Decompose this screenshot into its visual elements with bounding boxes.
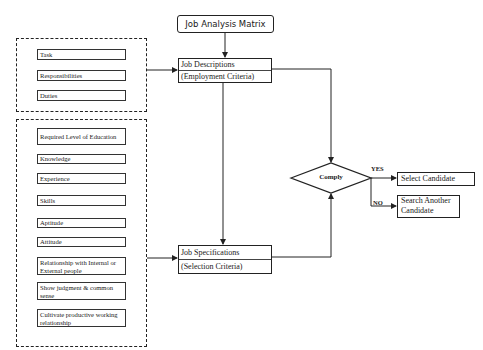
item-label: Responsibilities — [40, 72, 82, 80]
search-another-candidate-label: Search Another Candidate — [401, 196, 451, 215]
item-label: Experience — [40, 175, 70, 183]
comply-label: Comply — [311, 173, 351, 181]
item-duties: Duties — [37, 90, 126, 101]
item-attitude: Attitude — [37, 237, 126, 247]
item-experience: Experience — [37, 173, 126, 184]
item-required-education: Required Level of Education — [37, 128, 126, 145]
item-label: Skills — [40, 197, 55, 205]
item-label: Attitude — [40, 238, 62, 246]
item-label: Relationship with Internal or External p… — [40, 259, 116, 274]
yes-label: YES — [371, 165, 384, 172]
item-relationship: Relationship with Internal or External p… — [37, 257, 126, 275]
job-specifications-box: Job Specifications (Selection Criteria) — [178, 245, 272, 274]
item-responsibilities: Responsibilities — [37, 70, 126, 81]
item-label: Cultivate productive working relationshi… — [40, 311, 118, 326]
job-descriptions-subtitle: (Employment Criteria) — [179, 71, 271, 83]
item-label: Duties — [40, 92, 57, 100]
job-analysis-matrix-box: Job Analysis Matrix — [177, 15, 274, 33]
item-label: Required Level of Education — [40, 133, 116, 141]
job-analysis-matrix-label: Job Analysis Matrix — [185, 19, 265, 29]
select-candidate-box: Select Candidate — [397, 172, 475, 186]
item-label: Aptitude — [40, 219, 63, 227]
item-judgment: Show judgment & common sense — [37, 282, 126, 300]
item-knowledge: Knowledge — [37, 154, 126, 164]
item-skills: Skills — [37, 195, 126, 206]
item-label: Task — [40, 51, 52, 59]
no-label: NO — [373, 199, 383, 206]
select-candidate-label: Select Candidate — [401, 174, 455, 183]
item-aptitude: Aptitude — [37, 218, 126, 228]
item-label: Show judgment & common sense — [40, 284, 113, 299]
item-label: Knowledge — [40, 155, 70, 163]
job-specifications-subtitle: (Selection Criteria) — [179, 260, 271, 274]
item-cultivate-relationship: Cultivate productive working relationshi… — [37, 309, 126, 327]
job-specifications-title: Job Specifications — [179, 246, 271, 260]
search-another-candidate-box: Search Another Candidate — [397, 195, 460, 218]
job-descriptions-box: Job Descriptions (Employment Criteria) — [178, 58, 272, 83]
job-descriptions-title: Job Descriptions — [179, 59, 271, 71]
item-task: Task — [37, 49, 126, 60]
